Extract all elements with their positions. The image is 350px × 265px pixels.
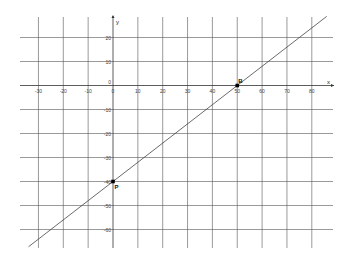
coordinate-plane: -30-20-100102030405060708020100-10-20-30… (0, 0, 350, 265)
x-tick-label: 10 (135, 88, 141, 94)
x-tick-label: -30 (35, 88, 42, 94)
series-line (29, 16, 327, 246)
data-line (29, 16, 327, 246)
point-label-P: P (115, 184, 119, 190)
y-tick-label: -60 (104, 227, 111, 233)
x-tick-label: 60 (259, 88, 265, 94)
x-tick-label: 80 (309, 88, 315, 94)
x-tick-label: -10 (85, 88, 92, 94)
x-axis-label: x (327, 79, 330, 85)
y-tick-label: -10 (104, 107, 111, 113)
y-tick-label: 10 (105, 59, 111, 65)
x-tick-label: 50 (234, 88, 240, 94)
x-axis-arrow-icon (331, 84, 334, 87)
x-tick-label: -20 (60, 88, 67, 94)
y-tick-label: 0 (108, 79, 111, 85)
y-axis-label: y (116, 19, 119, 25)
y-tick-label: -30 (104, 155, 111, 161)
point-label-B: B (238, 78, 243, 84)
y-tick-label: -50 (104, 203, 111, 209)
x-tick-label: 70 (284, 88, 290, 94)
x-tick-label: 0 (112, 88, 115, 94)
x-tick-label: 20 (160, 88, 166, 94)
y-axis-arrow-icon (112, 15, 115, 18)
y-tick-label: 20 (105, 35, 111, 41)
x-tick-label: 30 (185, 88, 191, 94)
y-tick-label: -20 (104, 131, 111, 137)
point-B (235, 84, 239, 88)
x-tick-label: 40 (210, 88, 216, 94)
